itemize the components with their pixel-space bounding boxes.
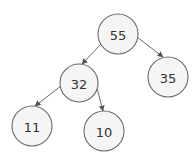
tree-node-55: 55 bbox=[98, 14, 138, 54]
node-label: 55 bbox=[110, 28, 127, 43]
node-label: 32 bbox=[71, 77, 88, 92]
edge-32-to-10 bbox=[97, 88, 103, 111]
tree-node-32: 32 bbox=[60, 64, 98, 102]
node-label: 10 bbox=[96, 125, 113, 140]
edges bbox=[35, 37, 163, 111]
edge-55-to-35 bbox=[137, 37, 163, 57]
node-label: 11 bbox=[24, 120, 41, 135]
tree-node-10: 10 bbox=[84, 111, 124, 151]
edge-32-to-11 bbox=[35, 86, 61, 106]
tree-node-35: 35 bbox=[148, 57, 188, 97]
edge-55-to-32 bbox=[82, 44, 101, 64]
tree-diagram: 55 32 35 11 10 bbox=[0, 0, 196, 160]
node-label: 35 bbox=[160, 71, 177, 86]
tree-node-11: 11 bbox=[12, 106, 52, 146]
